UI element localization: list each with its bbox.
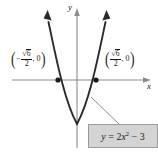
equals-sign: = [106, 131, 117, 142]
close-paren: ) [130, 49, 135, 68]
fraction-numerator: √6 [21, 49, 32, 58]
y-axis-arrowhead-icon [74, 8, 80, 16]
radicand: 6 [115, 49, 120, 58]
right-intercept-label: ( √6 2 , 0 ) [104, 49, 136, 68]
square-root-icon: √6 [22, 49, 31, 58]
negative-sign: − [16, 54, 21, 63]
y-coordinate: , 0 [32, 54, 40, 63]
fraction: √6 2 [110, 49, 121, 68]
equation-callout-box: y = 2x2 − 3 [88, 124, 158, 148]
y-axis [74, 8, 80, 148]
fraction-denominator: 2 [24, 60, 30, 68]
radicand: 6 [26, 49, 31, 58]
open-paren: ( [105, 49, 110, 68]
y-coordinate: , 0 [121, 54, 129, 63]
right-x-intercept-point [93, 77, 98, 82]
open-paren: ( [11, 49, 16, 68]
equation-text: y = 2x2 − 3 [101, 130, 144, 142]
fraction-numerator: √6 [110, 49, 121, 58]
parabola-figure: y x ( − √6 2 , 0 ) ( √6 2 [0, 0, 158, 156]
right-branch-arrowhead-icon [102, 10, 110, 20]
x-axis [12, 77, 151, 83]
fraction-denominator: 2 [113, 60, 119, 68]
fraction: √6 2 [21, 49, 32, 68]
left-intercept-label: ( − √6 2 , 0 ) [10, 49, 47, 68]
close-paren: ) [41, 49, 46, 68]
left-branch-arrowhead-icon [44, 10, 52, 20]
callout-leader-line [91, 97, 119, 124]
square-root-icon: √6 [111, 49, 120, 58]
x-axis-label: x [147, 82, 151, 91]
left-x-intercept-point [55, 77, 60, 82]
constant: 3 [140, 131, 145, 142]
minus-sign: − [129, 131, 140, 142]
y-axis-label: y [68, 3, 72, 12]
